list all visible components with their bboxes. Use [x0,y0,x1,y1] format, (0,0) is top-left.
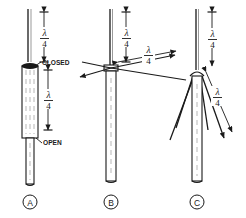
panel-c-group: λ 4 λ 4 C [170,9,232,209]
panel-b-caption: B [108,198,114,208]
panel-b-group: λ 4 λ 4 B [80,9,186,209]
panel-c-dim-vertical: λ 4 [206,12,219,66]
panel-c-vertical-radiator [196,9,199,70]
panel-b-dim-vertical-denominator: 4 [124,39,129,49]
panel-a-dim-sleeve-numerator: λ [45,90,50,100]
panel-a-closed-cap [22,63,39,69]
panel-a-closed-callout: CLOSED [35,59,70,66]
panel-b-dim-radial-numerator: λ [145,45,150,55]
panel-a-dim-upper: λ 4 [38,12,51,62]
panel-a-open-callout: OPEN [36,138,62,146]
panel-c-dim-vertical-denominator: 4 [210,40,215,50]
panel-c-dim-radial-denominator: 4 [215,98,220,108]
panel-a-dim-sleeve: λ 4 [42,70,55,130]
panel-a-lower-mast [26,138,34,186]
panel-a-dim-upper-denominator: 4 [42,39,47,49]
panel-b-dim-vertical-numerator: λ [123,28,128,38]
panel-a-upper-radiator [28,9,31,62]
panel-a-dim-sleeve-denominator: 4 [46,101,51,111]
panel-b-dim-vertical: λ 4 [120,12,133,62]
panel-b-vertical-radiator [110,9,113,66]
panel-c-caption: C [194,198,200,208]
panel-a-sleeve-tube [22,66,38,138]
panel-c-feedpoint [190,72,204,76]
panel-a-group: λ 4 λ 4 CLOSED OPEN [22,9,70,209]
panel-b-dim-radial-denominator: 4 [146,56,151,66]
panel-a-caption: A [27,198,33,208]
panel-c-dim-radial-numerator: λ [214,87,219,97]
panel-a-caption-group: A [23,195,37,209]
panel-b-caption-group: B [104,195,118,209]
panel-c-dim-vertical-numerator: λ [209,29,214,39]
panel-c-mast [192,76,202,183]
antenna-figure-canvas: λ 4 λ 4 CLOSED OPEN [0,0,246,218]
panel-a-dim-upper-numerator: λ [41,28,46,38]
panel-b-mast [106,71,116,183]
closed-label: CLOSED [42,59,70,66]
antenna-diagram-svg: λ 4 λ 4 CLOSED OPEN [0,0,246,218]
panel-c-caption-group: C [190,195,204,209]
open-label: OPEN [43,139,62,146]
